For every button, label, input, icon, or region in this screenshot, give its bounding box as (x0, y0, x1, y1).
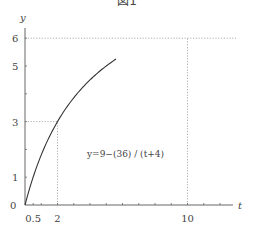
x-tick-label: 2 (54, 213, 60, 224)
x-tick-label: 10 (181, 213, 194, 224)
x-tick-label: 0.5 (25, 213, 41, 224)
y-tick-label: 6 (12, 33, 18, 44)
y-tick-label: 3 (12, 117, 18, 128)
equation-label: y=9−(36) / (t+4) (86, 149, 164, 159)
y-tick-label: 5 (12, 61, 18, 72)
y-axis-label: y (19, 12, 26, 23)
curve-line (25, 59, 116, 205)
x-axis-label: t (238, 200, 243, 211)
y-tick-label: 1 (12, 172, 18, 183)
y-tick-labels: 1356 (12, 33, 18, 183)
line-chart: y t 0 1356 0.5210 y=9−(36) / (t+4) (0, 0, 254, 233)
x-tick-labels: 0.5210 (25, 213, 194, 224)
reference-lines (25, 38, 236, 205)
origin-label: 0 (10, 200, 16, 211)
axis-ticks (25, 38, 220, 205)
